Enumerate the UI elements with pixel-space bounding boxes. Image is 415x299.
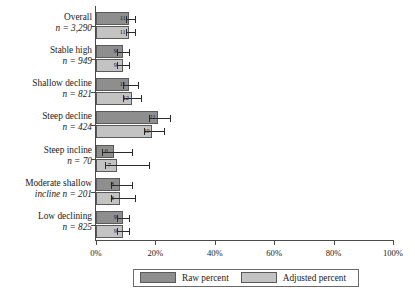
error-cap-adjusted-6-hi: [129, 228, 130, 235]
y-label-steep-decline-name: Steep decline: [0, 111, 92, 122]
value-label-adjusted-2: 12: [123, 94, 129, 101]
y-label-low-declining-name: Low declining: [0, 211, 92, 222]
error-bar-adjusted-5: [111, 198, 135, 199]
y-label-shallow-decline-name: Shallow decline: [0, 78, 92, 89]
error-cap-adjusted-1-lo: [117, 62, 118, 69]
value-label-raw-0: 11: [120, 14, 126, 21]
error-cap-raw-4-lo: [102, 149, 103, 156]
value-label-raw-3: 21: [149, 113, 155, 120]
y-label-low-declining: Low declining n = 825: [0, 211, 92, 232]
y-axis-category-labels: Overall n = 3,290 Stable high n = 949 Sh…: [0, 0, 92, 238]
error-cap-adjusted-6-lo: [117, 228, 118, 235]
y-label-overall: Overall n = 3,290: [0, 12, 92, 33]
error-cap-adjusted-5-hi: [135, 195, 136, 202]
error-cap-raw-1-hi: [129, 49, 130, 56]
chart-container: Overall n = 3,290 Stable high n = 949 Sh…: [0, 0, 415, 299]
value-label-raw-2: 11: [120, 80, 126, 87]
x-tick-label-100: 100%: [373, 248, 413, 258]
error-cap-adjusted-2-hi: [141, 95, 142, 102]
value-label-adjusted-0: 11: [120, 28, 126, 35]
value-label-raw-4: 6: [105, 147, 108, 154]
plot-area: 11119911122119678899 0%20%40%60%80%100%: [96, 8, 393, 238]
error-bar-raw-0: [126, 19, 135, 20]
legend-label-adjusted: Adjusted percent: [283, 273, 346, 283]
y-label-shallow-decline-n: n = 821: [0, 89, 92, 100]
error-bar-adjusted-6: [117, 231, 129, 232]
legend-swatch-raw: [140, 272, 176, 283]
error-bar-adjusted-0: [126, 32, 135, 33]
value-label-adjusted-1: 9: [114, 61, 117, 68]
x-tick-label-60: 60%: [254, 248, 294, 258]
value-label-adjusted-3: 19: [143, 127, 149, 134]
x-tick-label-80: 80%: [314, 248, 354, 258]
y-label-shallow-decline: Shallow decline n = 821: [0, 78, 92, 99]
x-tick-0: [96, 240, 97, 245]
x-tick-label-0: 0%: [76, 248, 116, 258]
error-cap-raw-2-hi: [138, 82, 139, 89]
y-label-moderate-shallow-incline-n: incline n = 201: [0, 189, 92, 200]
x-tick-60: [274, 240, 275, 245]
x-axis-line: [95, 240, 394, 241]
y-label-steep-decline-n: n = 424: [0, 122, 92, 133]
value-label-adjusted-5: 8: [111, 194, 114, 201]
error-bar-raw-5: [111, 185, 132, 186]
error-cap-raw-3-hi: [170, 115, 171, 122]
error-bar-adjusted-4: [105, 165, 150, 166]
legend-label-raw: Raw percent: [182, 273, 229, 283]
error-cap-raw-6-lo: [117, 215, 118, 222]
y-label-stable-high: Stable high n = 949: [0, 45, 92, 66]
error-cap-raw-6-hi: [129, 215, 130, 222]
x-tick-100: [393, 240, 394, 245]
value-label-adjusted-6: 9: [114, 227, 117, 234]
error-cap-raw-4-hi: [132, 149, 133, 156]
error-cap-adjusted-0-hi: [135, 29, 136, 36]
y-label-moderate-shallow-incline-name: Moderate shallow: [0, 178, 92, 189]
x-tick-80: [334, 240, 335, 245]
error-cap-adjusted-3-hi: [164, 128, 165, 135]
error-cap-adjusted-4-hi: [149, 162, 150, 169]
value-label-raw-5: 8: [111, 180, 114, 187]
value-label-raw-1: 9: [114, 47, 117, 54]
x-tick-20: [155, 240, 156, 245]
error-cap-adjusted-0-lo: [126, 29, 127, 36]
x-tick-label-20: 20%: [135, 248, 175, 258]
y-label-moderate-shallow-incline: Moderate shallow incline n = 201: [0, 178, 92, 199]
x-tick-40: [215, 240, 216, 245]
y-label-steep-incline: Steep incline n = 70: [0, 145, 92, 166]
y-label-stable-high-n: n = 949: [0, 56, 92, 67]
error-bar-raw-1: [117, 52, 129, 53]
error-cap-raw-0-hi: [135, 16, 136, 23]
error-bar-raw-6: [117, 218, 129, 219]
error-cap-raw-1-lo: [117, 49, 118, 56]
y-label-steep-decline: Steep decline n = 424: [0, 111, 92, 132]
error-bar-adjusted-1: [117, 65, 129, 66]
error-cap-raw-0-lo: [126, 16, 127, 23]
y-label-overall-name: Overall: [0, 12, 92, 23]
x-tick-label-40: 40%: [195, 248, 235, 258]
value-label-raw-6: 9: [114, 213, 117, 220]
y-label-stable-high-name: Stable high: [0, 45, 92, 56]
error-cap-adjusted-1-hi: [129, 62, 130, 69]
y-label-steep-incline-name: Steep incline: [0, 145, 92, 156]
chart-legend: Raw percent Adjusted percent: [133, 269, 359, 287]
legend-swatch-adjusted: [241, 272, 277, 283]
y-label-overall-n: n = 3,290: [0, 23, 92, 34]
error-cap-adjusted-4-lo: [105, 162, 106, 169]
error-cap-raw-5-hi: [132, 182, 133, 189]
value-label-adjusted-4: 7: [108, 161, 111, 168]
y-label-low-declining-n: n = 825: [0, 222, 92, 233]
y-label-steep-incline-n: n = 70: [0, 156, 92, 167]
